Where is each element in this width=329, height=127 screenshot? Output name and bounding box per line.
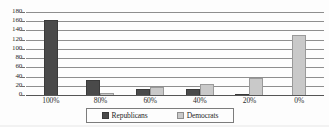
axis-baseline	[26, 95, 324, 96]
bar-republicans-80pct	[86, 80, 100, 95]
y-axis-tick-label: 100	[0, 45, 22, 52]
y-axis-tick-label: 120	[0, 36, 22, 43]
x-axis-tick-label: 20%	[226, 97, 274, 105]
y-axis-tick-label: 20	[0, 82, 22, 89]
y-axis-tick-mark	[20, 40, 25, 41]
legend-item-republicans: Republicans	[102, 112, 148, 120]
bar-republicans-40pct	[186, 89, 200, 95]
y-axis-tick-mark	[20, 12, 25, 13]
x-axis-tick-label: 0%	[275, 97, 323, 105]
bar-democrats-20pct	[249, 78, 263, 95]
legend-item-democrats: Democrats	[177, 112, 219, 120]
plot-area	[26, 12, 324, 95]
bar-republicans-20pct	[235, 94, 249, 96]
bar-democrats-0pct	[292, 35, 306, 95]
bar-group	[175, 12, 225, 95]
scan-edge	[0, 125, 329, 127]
chart-legend: Republicans Democrats	[86, 108, 234, 123]
bar-group	[225, 12, 275, 95]
y-axis-tick-mark	[20, 95, 25, 96]
y-axis-tick-label: 80	[0, 54, 22, 61]
legend-swatch-democrats	[177, 112, 184, 119]
bar-democrats-60pct	[150, 87, 164, 95]
y-axis-tick-mark	[20, 21, 25, 22]
bar-group	[76, 12, 126, 95]
y-axis-tick-label: 140	[0, 26, 22, 33]
bar-chart: 180160140120100806040200 100%80%60%40%20…	[0, 0, 329, 127]
y-axis-tick-label: 40	[0, 73, 22, 80]
x-axis-tick-label: 40%	[176, 97, 224, 105]
x-axis-tick-label: 60%	[126, 97, 174, 105]
y-axis-tick-mark	[20, 86, 25, 87]
x-axis-tick-label: 100%	[27, 97, 75, 105]
bar-group	[274, 12, 324, 95]
bar-group	[26, 12, 76, 95]
legend-label-democrats: Democrats	[187, 112, 219, 120]
y-axis-tick-mark	[20, 30, 25, 31]
x-axis-tick-label: 80%	[77, 97, 125, 105]
y-axis-tick-mark	[20, 67, 25, 68]
y-axis-tick-label: 160	[0, 17, 22, 24]
y-axis-tick-label: 60	[0, 63, 22, 70]
y-axis-tick-mark	[20, 58, 25, 59]
y-axis-tick-mark	[20, 49, 25, 50]
y-axis-tick-mark	[20, 77, 25, 78]
y-axis-tick-label: 0	[0, 91, 22, 98]
bar-republicans-60pct	[136, 89, 150, 95]
bar-group	[125, 12, 175, 95]
bar-democrats-40pct	[200, 84, 214, 95]
bar-democrats-80pct	[100, 93, 114, 95]
y-axis-tick-label: 180	[0, 8, 22, 15]
legend-swatch-republicans	[102, 112, 109, 119]
legend-label-republicans: Republicans	[112, 112, 148, 120]
bar-republicans-100pct	[44, 20, 58, 95]
